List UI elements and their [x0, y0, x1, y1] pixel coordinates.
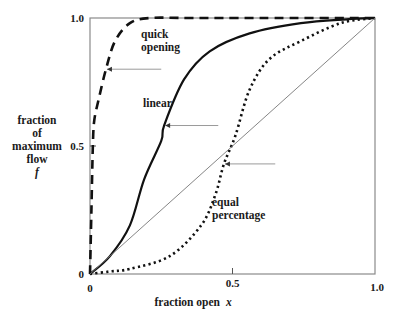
svg-text:maximum: maximum — [12, 140, 62, 152]
y-tick-label-0.5: 0.5 — [70, 140, 84, 152]
y-tick-label-1: 1.0 — [70, 12, 84, 24]
arrowhead-icon — [107, 67, 112, 72]
valve-characteristics-chart: 1.0 0.5 0 0 0.5 1.0 fraction of maximum … — [0, 0, 396, 321]
x-tick-label-0.5: 0.5 — [226, 277, 240, 289]
x-tick-label-0: 0 — [87, 282, 93, 294]
svg-text:fraction open: fraction open — [155, 296, 221, 309]
annotation-equal-percentage: equal percentage — [212, 196, 265, 222]
svg-text:flow: flow — [26, 153, 48, 165]
svg-text:quick: quick — [141, 28, 169, 41]
curve-reference-diagonal — [90, 18, 375, 274]
svg-text:fraction: fraction — [18, 114, 58, 126]
annotation-arrows — [107, 67, 275, 167]
svg-text:of: of — [32, 127, 42, 139]
svg-text:x: x — [225, 296, 232, 308]
svg-text:equal: equal — [212, 196, 239, 209]
annotation-quick-opening: quick opening — [141, 28, 180, 54]
y-tick-label-0: 0 — [79, 268, 85, 280]
svg-text:opening: opening — [141, 41, 180, 54]
x-axis-title: fraction open x — [155, 296, 232, 309]
curves-layer — [90, 18, 375, 274]
svg-text:f: f — [35, 166, 40, 179]
y-axis-title: fraction of maximum flow f — [12, 114, 62, 179]
x-tick-label-1: 1.0 — [370, 281, 384, 293]
svg-text:percentage: percentage — [212, 209, 265, 222]
annotation-linear: linear — [143, 97, 172, 109]
